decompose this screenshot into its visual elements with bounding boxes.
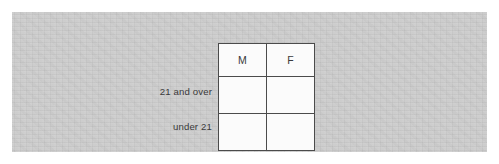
- cell-21-and-over-f[interactable]: [267, 77, 315, 114]
- scanned-paper-panel: 21 and over under 21 M F: [12, 12, 487, 152]
- column-header-f: F: [267, 44, 315, 77]
- table-header-row: M F: [219, 44, 315, 77]
- row-label-under-21: under 21: [22, 121, 212, 133]
- cell-under-21-f[interactable]: [267, 114, 315, 151]
- row-label-21-and-over: 21 and over: [22, 86, 212, 98]
- cell-under-21-m[interactable]: [219, 114, 267, 151]
- page-canvas: 21 and over under 21 M F: [0, 0, 499, 164]
- two-way-table-container: M F: [218, 43, 312, 148]
- two-way-frequency-table: M F: [218, 43, 315, 151]
- table-row: [219, 77, 315, 114]
- table-row: [219, 114, 315, 151]
- cell-21-and-over-m[interactable]: [219, 77, 267, 114]
- column-header-m: M: [219, 44, 267, 77]
